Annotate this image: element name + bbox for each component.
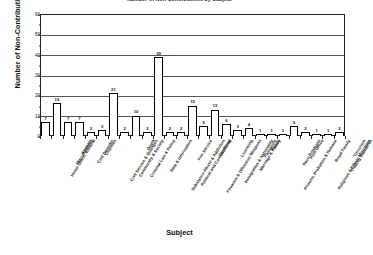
bar-value-label: 2	[300, 127, 311, 131]
bar-value-label: 2	[119, 127, 130, 131]
y-tick-label: 40	[20, 53, 40, 58]
bar-group[interactable]: 7	[74, 14, 85, 136]
bar-value-label: 2	[176, 127, 187, 131]
bar-value-label: 15	[187, 100, 198, 104]
bar-group[interactable]: 21	[108, 14, 119, 136]
bar-group[interactable]: 39	[153, 14, 164, 136]
y-tick-label: 20	[20, 94, 40, 99]
bar-group[interactable]: 2	[300, 14, 311, 136]
bar-value-label: 3	[232, 125, 243, 129]
bar-value-label: 2	[334, 127, 345, 131]
bar-group[interactable]: 1	[255, 14, 266, 136]
bar-group[interactable]: 1	[266, 14, 277, 136]
bar-group[interactable]: 1	[277, 14, 288, 136]
bar-value-label: 1	[311, 129, 322, 133]
bar-value-label: 10	[130, 110, 141, 114]
bar-value-label: 3	[96, 125, 107, 129]
bar-value-label: 5	[198, 121, 209, 125]
bar-value-label: 1	[266, 129, 277, 133]
y-tick-label: 60	[20, 13, 40, 18]
bar[interactable]	[188, 106, 197, 137]
bar-value-label: 4	[243, 123, 254, 127]
bar-group[interactable]: 16	[51, 14, 62, 136]
bar-value-label: 7	[40, 117, 51, 121]
bar[interactable]	[199, 126, 208, 136]
bar-series: 716772321210239221551363411152112	[40, 14, 345, 136]
bar-value-label: 1	[322, 129, 333, 133]
bar[interactable]	[109, 93, 118, 136]
bar-group[interactable]: 7	[40, 14, 51, 136]
bar-group[interactable]: 6	[221, 14, 232, 136]
bar[interactable]	[245, 128, 254, 136]
y-tick-label: 0	[20, 135, 40, 140]
x-axis-title: Subject	[0, 228, 359, 237]
bar-value-label: 1	[277, 129, 288, 133]
bar[interactable]	[75, 122, 84, 136]
bar-group[interactable]: 3	[232, 14, 243, 136]
bar-group[interactable]: 2	[85, 14, 96, 136]
bar-group[interactable]: 2	[119, 14, 130, 136]
bar-group[interactable]: 1	[311, 14, 322, 136]
bar-group[interactable]: 2	[164, 14, 175, 136]
bar-value-label: 1	[255, 129, 266, 133]
bar-value-label: 39	[153, 52, 164, 56]
bar-group[interactable]: 10	[130, 14, 141, 136]
bar-group[interactable]: 2	[334, 14, 345, 136]
x-axis-tick-labels: Home Office: GeneralMiscellaneousAnimals…	[40, 139, 345, 217]
bar-group[interactable]: 5	[289, 14, 300, 136]
bar[interactable]	[154, 57, 163, 136]
bar[interactable]	[64, 122, 73, 136]
bar-group[interactable]: 1	[322, 14, 333, 136]
bar[interactable]	[290, 126, 299, 136]
bar-value-label: 2	[142, 127, 153, 131]
bar[interactable]	[41, 122, 50, 136]
bar-value-label: 7	[63, 117, 74, 121]
y-tick-label: 50	[20, 33, 40, 38]
bar-value-label: 16	[51, 98, 62, 102]
y-tick-label: 30	[20, 74, 40, 79]
bar-value-label: 2	[164, 127, 175, 131]
bar-value-label: 21	[108, 88, 119, 92]
bar-group[interactable]: 2	[176, 14, 187, 136]
bar[interactable]	[53, 103, 62, 136]
bar[interactable]	[132, 116, 141, 136]
bar-group[interactable]: 3	[96, 14, 107, 136]
bar-value-label: 2	[85, 127, 96, 131]
bar[interactable]	[222, 124, 231, 136]
bar-group[interactable]: 2	[142, 14, 153, 136]
chart-title: Number of Non-Contributions by Subject	[0, 0, 359, 3]
bar-value-label: 6	[221, 119, 232, 123]
bar-group[interactable]: 5	[198, 14, 209, 136]
bar-group[interactable]: 7	[63, 14, 74, 136]
y-tick-label: 10	[20, 114, 40, 119]
bar-group[interactable]: 15	[187, 14, 198, 136]
bar[interactable]	[211, 110, 220, 136]
bar-value-label: 13	[209, 104, 220, 108]
bar-value-label: 7	[74, 117, 85, 121]
bar-group[interactable]: 13	[209, 14, 220, 136]
bar-group[interactable]: 4	[243, 14, 254, 136]
x-tick-label: Charities	[104, 139, 117, 157]
bar-value-label: 5	[289, 121, 300, 125]
